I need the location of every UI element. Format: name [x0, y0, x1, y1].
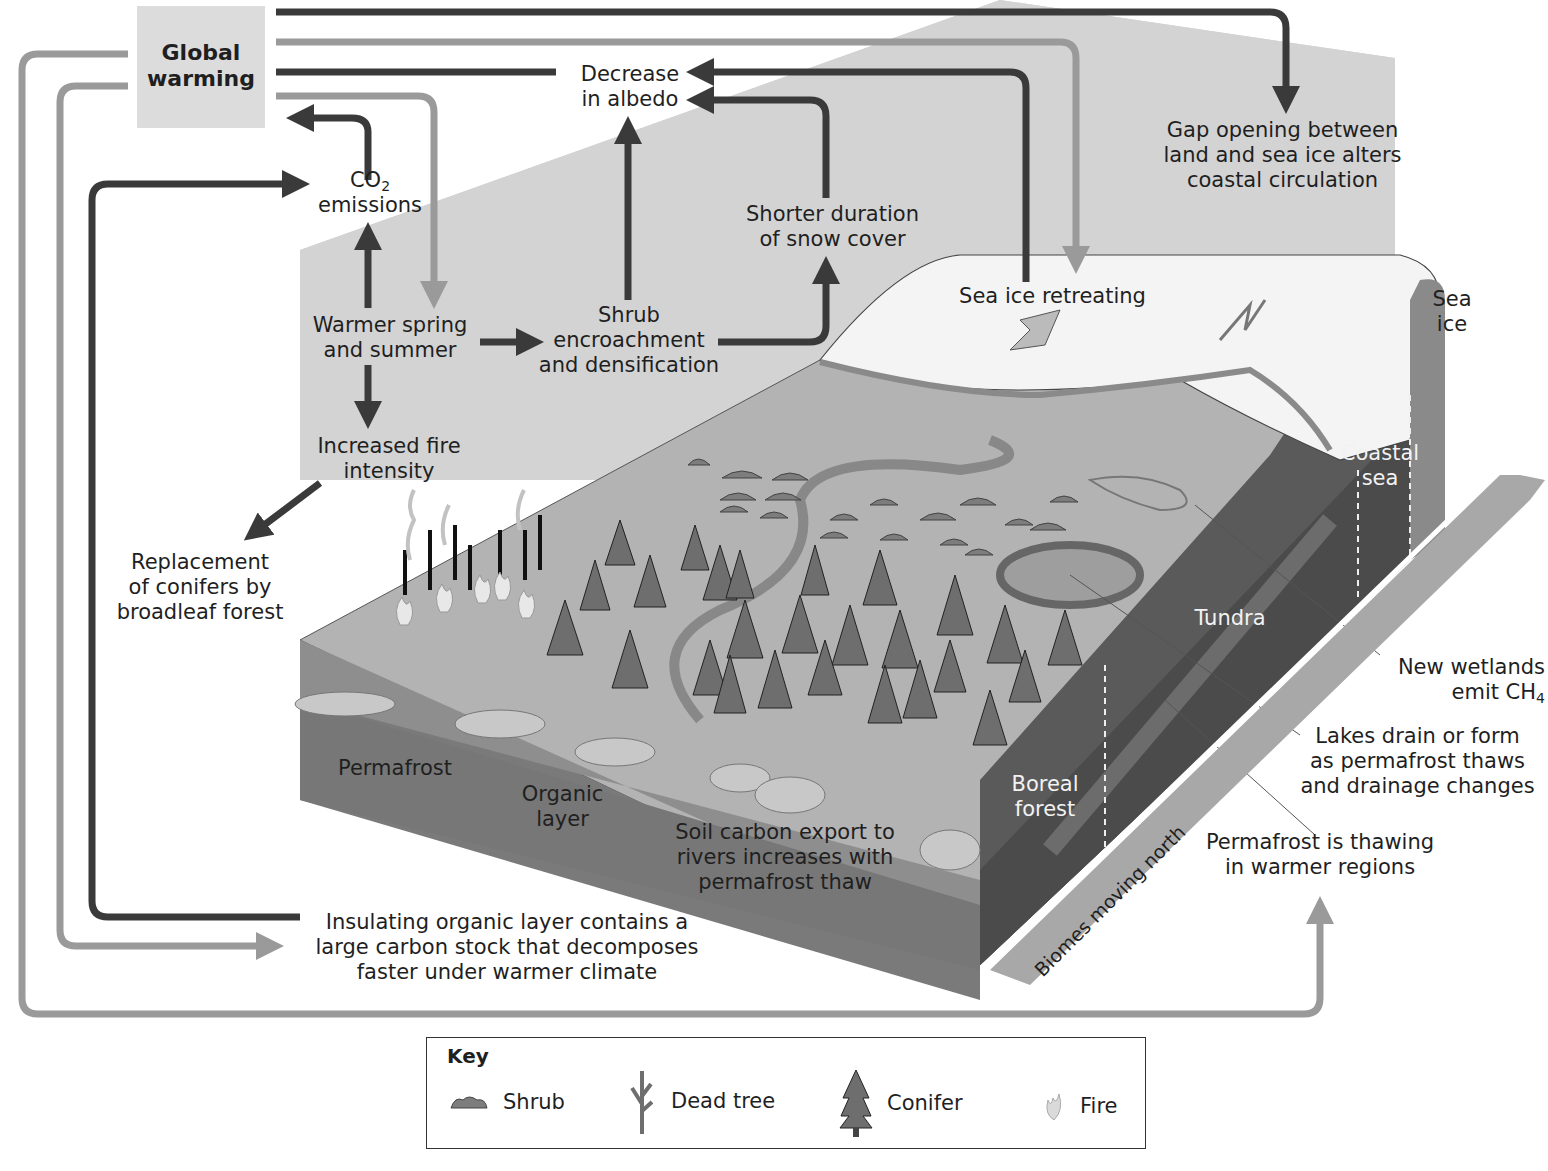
permafrost-label: Permafrost — [325, 756, 465, 781]
new-wetlands-label: New wetlands emit CH4 — [1370, 655, 1545, 705]
legend-key: Key Shrub Dead tree Conifer Fire — [426, 1037, 1146, 1149]
sea-ice-retreating-label: Sea ice retreating — [950, 284, 1155, 309]
shrub-icon — [449, 1092, 489, 1112]
sea-ice-label: Seaice — [1420, 287, 1484, 337]
shrub-encroachment-label: Shrub encroachment and densification — [525, 303, 733, 378]
key-label-fire: Fire — [1080, 1094, 1117, 1118]
shorter-snow-cover-label: Shorter durationof snow cover — [735, 202, 930, 252]
global-warming-label: Global warming — [137, 40, 265, 92]
boreal-forest-label: Borealforest — [995, 772, 1095, 822]
dead-tree-icon — [627, 1066, 657, 1136]
gap-opening-label: Gap opening between land and sea ice alt… — [1150, 118, 1415, 193]
key-item-shrub: Shrub — [449, 1090, 565, 1114]
key-item-fire: Fire — [1042, 1090, 1117, 1122]
permafrost-thawing-label: Permafrost is thawing in warmer regions — [1195, 830, 1445, 880]
co2-emissions-label: CO2 emissions — [300, 168, 440, 218]
tundra-label: Tundra — [1180, 606, 1280, 631]
decrease-albedo-label: Decreasein albedo — [560, 62, 700, 112]
replacement-conifers-label: Replacement of conifers by broadleaf for… — [105, 550, 295, 625]
key-label-dead-tree: Dead tree — [671, 1089, 775, 1113]
key-item-dead-tree: Dead tree — [627, 1066, 775, 1136]
insulating-layer-label: Insulating organic layer contains a larg… — [302, 910, 712, 985]
soil-carbon-label: Soil carbon export to rivers increases w… — [660, 820, 910, 895]
conifer-icon — [839, 1068, 873, 1138]
lakes-drain-label: Lakes drain or form as permafrost thaws … — [1290, 724, 1545, 799]
fire-icon — [1042, 1090, 1066, 1122]
key-title: Key — [447, 1044, 489, 1068]
key-label-shrub: Shrub — [503, 1090, 565, 1114]
key-item-conifer: Conifer — [839, 1068, 963, 1138]
organic-layer-label: Organiclayer — [505, 782, 620, 832]
key-label-conifer: Conifer — [887, 1091, 963, 1115]
coastal-sea-label: Coastalsea — [1330, 441, 1430, 491]
warmer-spring-label: Warmer springand summer — [300, 313, 480, 363]
increased-fire-label: Increased fireintensity — [300, 434, 478, 484]
